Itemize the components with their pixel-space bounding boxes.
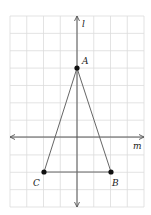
point-c: [41, 169, 46, 174]
label-m: m: [133, 141, 142, 151]
label-a: A: [81, 56, 89, 66]
label-l: l: [82, 19, 85, 29]
point-a: [74, 65, 79, 70]
label-b: B: [111, 178, 119, 188]
point-b: [108, 169, 113, 174]
label-c: C: [33, 178, 40, 188]
triangle-diagram: l m A B C: [0, 0, 151, 215]
